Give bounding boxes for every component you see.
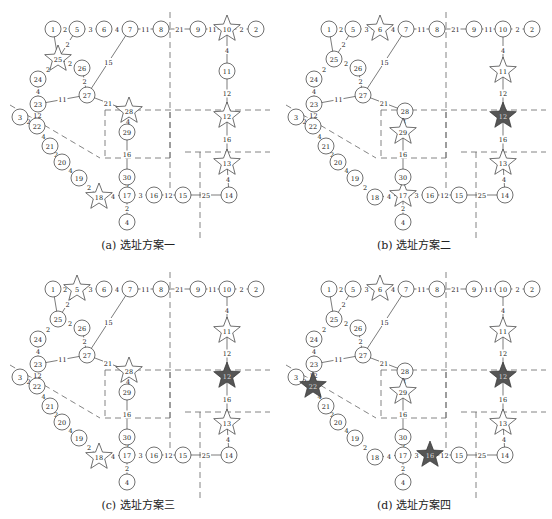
- node-label: 10: [223, 26, 231, 34]
- node-label: 25: [330, 316, 338, 324]
- node-circle-26: 26: [350, 60, 366, 76]
- edge-weight-label: 12: [499, 350, 507, 358]
- node-circle-28: 28: [397, 363, 413, 379]
- node-circle-2: 2: [248, 281, 264, 297]
- edge-weight-label: 2: [515, 286, 519, 294]
- edge-weight-label: 3: [88, 26, 92, 34]
- node-label: 3: [294, 374, 298, 382]
- edge-weight-label: 2: [341, 301, 345, 309]
- edge-weight-label: 4: [501, 307, 505, 315]
- node-label: 16: [426, 192, 434, 200]
- node-label: 26: [78, 65, 86, 73]
- node-circle-5: 5: [345, 21, 361, 37]
- node-label: 27: [359, 352, 367, 360]
- edge-weight-label: 4: [115, 26, 119, 34]
- edge-weight-label: 21: [380, 360, 388, 368]
- edge-weight-label: 4: [68, 167, 72, 175]
- node-label: 13: [223, 160, 231, 168]
- edge-weight-label: 2: [358, 78, 362, 86]
- edge-weight-label: 2: [363, 184, 367, 192]
- node-circle-14: 14: [497, 447, 513, 463]
- node-label: 6: [102, 26, 106, 34]
- edge-weight-label: 4: [41, 393, 45, 401]
- edge-weight-label: 2: [341, 41, 345, 49]
- node-circle-7: 7: [122, 21, 138, 37]
- edge-weight-label: 11: [334, 356, 342, 364]
- edge-weight-label: 16: [399, 151, 407, 159]
- node-label: 23: [34, 361, 42, 369]
- node-label: 17: [123, 452, 131, 460]
- edge-weight-label: 2: [239, 26, 243, 34]
- node-circle-24: 24: [306, 331, 322, 347]
- edge-weight-label: 4: [225, 47, 229, 55]
- node-circle-19: 19: [347, 170, 363, 186]
- edge-weight-label: 3: [414, 452, 418, 460]
- edge-weight-label: 4: [226, 176, 230, 184]
- edge-weight-label: 11: [484, 286, 492, 294]
- node-label: 22: [33, 123, 41, 131]
- node-label: 10: [499, 286, 507, 294]
- node-label: 6: [102, 286, 106, 294]
- edge-weight-label: 25: [202, 192, 210, 200]
- edge-weight-label: 4: [391, 286, 395, 294]
- edge-weight-label: 3: [364, 26, 368, 34]
- node-label: 17: [399, 192, 407, 200]
- node-circle-21: 21: [318, 138, 334, 154]
- edge-weight-label: 4: [312, 348, 316, 356]
- node-circle-5: 5: [69, 21, 85, 37]
- node-circle-2: 2: [248, 21, 264, 37]
- node-label: 29: [123, 389, 131, 397]
- node-label: 17: [399, 452, 407, 460]
- node-label: 11: [223, 328, 231, 336]
- node-label: 29: [399, 129, 407, 137]
- edge-weight-label: 2: [65, 41, 69, 49]
- node-label: 9: [196, 286, 200, 294]
- node-label: 10: [223, 286, 231, 294]
- node-circle-23: 23: [306, 96, 322, 112]
- node-circle-20: 20: [54, 414, 70, 430]
- edge-weight-label: 4: [387, 453, 391, 461]
- node-label: 2: [254, 286, 258, 294]
- edge-weight-label: 11: [208, 26, 216, 34]
- node-label: 14: [225, 452, 233, 460]
- edge-weight-label: 21: [451, 26, 459, 34]
- node-circle-29: 29: [119, 124, 135, 140]
- node-label: 22: [309, 123, 317, 131]
- node-circle-8: 8: [153, 21, 169, 37]
- node-label: 9: [472, 286, 476, 294]
- edge-weight-label: 4: [312, 88, 316, 96]
- node-label: 21: [322, 403, 330, 411]
- caption-c: (c) 选址方案三: [0, 496, 276, 512]
- node-circle-22: 22: [29, 378, 45, 394]
- edge-weight-label: 2: [65, 301, 69, 309]
- edge-weight-label: 12: [164, 452, 172, 460]
- edge-weight-label: 2: [87, 444, 91, 452]
- node-circle-9: 9: [190, 281, 206, 297]
- node-label: 23: [310, 101, 318, 109]
- node-circle-2: 2: [524, 21, 540, 37]
- node-circle-29: 29: [119, 384, 135, 400]
- edge-weight-label: 2: [515, 26, 519, 34]
- node-circle-6: 6: [96, 21, 112, 37]
- node-label: 21: [322, 143, 330, 151]
- edge-weight-label: 11: [141, 26, 149, 34]
- node-label: 19: [75, 435, 83, 443]
- node-label: 1: [327, 286, 331, 294]
- node-label: 30: [399, 174, 407, 182]
- node-label: 5: [75, 26, 79, 34]
- candidate-site-star-6: 6: [367, 275, 394, 300]
- node-label: 15: [455, 452, 463, 460]
- node-label: 25: [54, 316, 62, 324]
- node-label: 9: [196, 26, 200, 34]
- edge-weight-label: 3: [414, 192, 418, 200]
- node-circle-7: 7: [398, 281, 414, 297]
- node-circle-22: 22: [29, 118, 45, 134]
- candidate-site-star-13: 13: [214, 409, 241, 434]
- node-label: 19: [75, 175, 83, 183]
- edge-weight-label: 2: [239, 286, 243, 294]
- node-circle-30: 30: [395, 429, 411, 445]
- node-circle-6: 6: [96, 281, 112, 297]
- node-label: 1: [327, 26, 331, 34]
- node-circle-9: 9: [466, 281, 482, 297]
- node-label: 18: [95, 454, 103, 462]
